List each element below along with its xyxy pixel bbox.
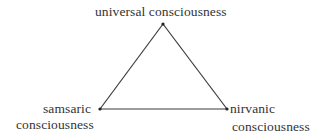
label-universal-consciousness: universal consciousness (95, 4, 227, 20)
label-samsaric-line1: samsaric (43, 101, 91, 117)
vertex-left (98, 107, 101, 110)
label-nirvanic-line1: nirvanic (230, 101, 275, 117)
edge-top-left (100, 24, 163, 109)
triangle-diagram: universal consciousness samsaric conscio… (0, 0, 331, 138)
vertex-right (225, 107, 228, 110)
vertex-top (161, 22, 164, 25)
label-nirvanic-line2: consciousness (232, 119, 310, 135)
edge-top-right (163, 24, 227, 109)
label-samsaric-line2: consciousness (16, 117, 94, 133)
